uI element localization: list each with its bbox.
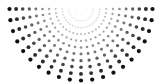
burst-dot bbox=[87, 52, 90, 55]
burst-dot bbox=[102, 30, 104, 32]
burst-dot bbox=[100, 48, 103, 51]
burst-dot bbox=[37, 21, 40, 24]
burst-dot bbox=[84, 13, 85, 14]
burst-dot bbox=[105, 8, 107, 10]
burst-dot bbox=[132, 45, 136, 49]
burst-dot bbox=[99, 69, 103, 73]
burst-dot bbox=[98, 26, 100, 28]
burst-dot bbox=[33, 53, 37, 57]
burst-dot bbox=[43, 34, 46, 37]
burst-dot bbox=[110, 49, 113, 52]
burst-dot bbox=[116, 34, 119, 37]
burst-dot bbox=[93, 50, 96, 53]
burst-dot bbox=[22, 16, 26, 20]
burst-dot bbox=[80, 27, 82, 29]
burst-dot bbox=[80, 40, 82, 42]
burst-dot bbox=[106, 59, 110, 63]
burst-dot bbox=[126, 41, 130, 45]
burst-dot bbox=[39, 28, 42, 31]
burst-dot bbox=[103, 20, 105, 22]
burst-dot bbox=[43, 20, 46, 23]
burst-dot bbox=[95, 28, 97, 30]
burst-dot bbox=[28, 7, 31, 10]
burst-dot bbox=[69, 31, 71, 33]
burst-dot bbox=[38, 38, 41, 41]
burst-dot bbox=[78, 14, 79, 15]
burst-dot bbox=[59, 48, 62, 51]
burst-dot bbox=[88, 65, 92, 69]
burst-dot bbox=[14, 7, 18, 11]
figure-root bbox=[0, 0, 163, 84]
burst-dot bbox=[79, 59, 82, 62]
burst-dot bbox=[21, 49, 25, 53]
burst-dot bbox=[35, 15, 38, 18]
burst-dot bbox=[108, 22, 110, 24]
burst-dot bbox=[28, 57, 32, 61]
burst-dot bbox=[90, 38, 92, 40]
burst-dot bbox=[92, 31, 94, 33]
burst-dot bbox=[24, 25, 28, 29]
burst-dot bbox=[125, 53, 129, 57]
burst-dot bbox=[81, 14, 82, 15]
burst-dot bbox=[86, 26, 88, 28]
burst-dot bbox=[107, 35, 110, 38]
burst-dot bbox=[61, 34, 63, 36]
burst-dot bbox=[51, 22, 53, 24]
burst-dot bbox=[147, 29, 151, 33]
burst-dot bbox=[52, 35, 55, 38]
burst-dot bbox=[143, 39, 147, 43]
burst-dot bbox=[43, 44, 46, 47]
burst-dot bbox=[75, 10, 76, 11]
burst-dot bbox=[76, 11, 77, 12]
burst-dot bbox=[122, 21, 125, 24]
burst-dot bbox=[50, 18, 52, 20]
burst-dot bbox=[92, 44, 95, 47]
burst-dot bbox=[46, 71, 50, 75]
burst-dot bbox=[42, 14, 45, 17]
burst-dot bbox=[104, 16, 106, 18]
burst-dot bbox=[28, 15, 31, 18]
burst-dot bbox=[91, 23, 93, 25]
burst-dot bbox=[71, 16, 72, 17]
burst-dot bbox=[53, 44, 56, 47]
burst-dot bbox=[144, 7, 148, 11]
burst-dot bbox=[111, 30, 114, 33]
burst-dot bbox=[102, 39, 105, 42]
burst-dot bbox=[85, 13, 86, 14]
burst-dot bbox=[50, 65, 54, 69]
burst-dot bbox=[48, 13, 50, 15]
burst-dot bbox=[60, 23, 62, 25]
burst-dot bbox=[85, 12, 86, 13]
radial-dot-burst-canvas bbox=[0, 0, 163, 84]
burst-dot bbox=[105, 12, 107, 14]
burst-dot bbox=[93, 8, 94, 9]
burst-dot bbox=[67, 21, 69, 23]
burst-dot bbox=[106, 27, 108, 29]
burst-dot bbox=[62, 8, 64, 10]
burst-dot bbox=[7, 7, 11, 11]
burst-dot bbox=[93, 21, 95, 23]
burst-dot bbox=[97, 17, 99, 19]
burst-dot bbox=[68, 78, 72, 82]
burst-dot bbox=[56, 16, 58, 18]
burst-dot bbox=[86, 10, 87, 11]
burst-dot bbox=[79, 66, 83, 70]
burst-dot bbox=[62, 42, 65, 45]
burst-dot bbox=[84, 33, 86, 35]
burst-dot bbox=[73, 18, 74, 19]
burst-dot bbox=[80, 53, 83, 56]
burst-dot bbox=[33, 31, 36, 34]
burst-dot bbox=[90, 78, 94, 82]
burst-dot bbox=[79, 72, 83, 76]
burst-dot bbox=[21, 7, 25, 11]
burst-dot bbox=[92, 10, 93, 11]
burst-dot bbox=[61, 63, 65, 67]
burst-dot bbox=[99, 11, 101, 13]
burst-dot bbox=[77, 20, 78, 21]
burst-dot bbox=[68, 8, 69, 9]
burst-dot bbox=[86, 46, 89, 49]
burst-dot bbox=[88, 32, 90, 34]
burst-dot bbox=[82, 20, 83, 21]
burst-dot bbox=[97, 42, 100, 45]
burst-dot bbox=[34, 8, 37, 11]
